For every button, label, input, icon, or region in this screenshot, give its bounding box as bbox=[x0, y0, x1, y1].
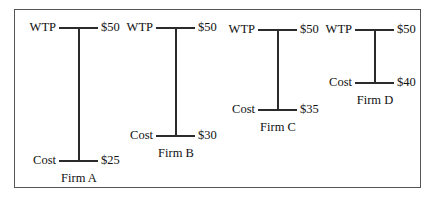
cost-value-b: $30 bbox=[198, 129, 217, 142]
wtp-label-b: WTP bbox=[112, 21, 153, 34]
cost-label-d: Cost bbox=[311, 76, 352, 89]
cost-tick-c bbox=[258, 109, 297, 111]
wtp-label-c: WTP bbox=[214, 23, 255, 36]
wtp-label-d: WTP bbox=[311, 23, 352, 36]
wtp-tick-b bbox=[156, 27, 195, 29]
value-stick-d bbox=[374, 30, 376, 84]
cost-label-c: Cost bbox=[214, 103, 255, 116]
cost-value-a: $25 bbox=[101, 154, 120, 167]
wtp-label-a: WTP bbox=[15, 21, 56, 34]
figure-border: WTP $50 Cost $25 Firm A WTP $50 Cost $30… bbox=[14, 9, 421, 188]
figure-canvas: WTP $50 Cost $25 Firm A WTP $50 Cost $30… bbox=[0, 0, 435, 203]
wtp-tick-a bbox=[59, 27, 98, 29]
value-stick-c bbox=[277, 30, 279, 111]
value-stick-a bbox=[78, 28, 80, 162]
value-stick-b bbox=[175, 28, 177, 137]
cost-label-a: Cost bbox=[15, 154, 56, 167]
firm-name-a: Firm A bbox=[35, 172, 123, 185]
cost-value-c: $35 bbox=[300, 103, 319, 116]
wtp-tick-d bbox=[355, 29, 394, 31]
cost-tick-b bbox=[156, 135, 195, 137]
cost-value-d: $40 bbox=[397, 76, 416, 89]
firm-name-b: Firm B bbox=[132, 147, 220, 160]
wtp-tick-c bbox=[258, 29, 297, 31]
firm-name-d: Firm D bbox=[331, 94, 419, 107]
firm-name-c: Firm C bbox=[234, 121, 322, 134]
wtp-value-d: $50 bbox=[397, 23, 416, 36]
cost-tick-a bbox=[59, 160, 98, 162]
cost-tick-d bbox=[355, 82, 394, 84]
cost-label-b: Cost bbox=[112, 129, 153, 142]
